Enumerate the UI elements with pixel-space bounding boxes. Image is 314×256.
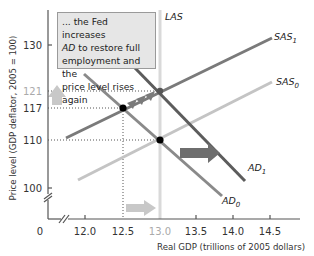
annotation-line-2: AD to restore full [62, 41, 151, 54]
chart-canvas: 130 121 117 110 100 0 12.0 12.5 13.0 13.… [0, 0, 314, 256]
ytick-130: 130 [23, 40, 42, 51]
sas1-label: SAS1 [274, 31, 297, 45]
ytick-100: 100 [23, 183, 42, 194]
ad-shift-arrow [180, 143, 220, 163]
annotation-line-1: ... the Fed increases [62, 15, 151, 41]
ytick-121: 121 [23, 86, 42, 97]
xtick-12-0: 12.0 [74, 226, 96, 237]
y-axis-title: Price level (GDP deflator, 2005 = 100) [8, 36, 18, 201]
origin-label: 0 [37, 226, 43, 237]
annotation-ad-term: AD [62, 42, 75, 53]
xtick-14-5: 14.5 [259, 226, 281, 237]
annotation-box: ... the Fed increases AD to restore full… [57, 12, 156, 69]
xtick-13-5: 13.5 [185, 226, 207, 237]
xtick-13-0: 13.0 [149, 226, 171, 237]
ad0-label: AD0 [221, 195, 241, 209]
ytick-117: 117 [23, 103, 42, 114]
sas0-label: SAS0 [276, 76, 300, 90]
annotation-line-3: employment and the [62, 54, 151, 80]
xtick-12-5: 12.5 [112, 226, 134, 237]
las-label: LAS [165, 11, 183, 22]
equilibrium-dot-121 [157, 88, 163, 94]
equilibrium-dot-110 [156, 136, 163, 143]
guide-lines [48, 91, 160, 219]
gdp-increase-arrow [126, 200, 156, 216]
ad1-label: AD1 [247, 162, 266, 176]
xtick-14-0: 14.0 [222, 226, 244, 237]
annotation-line-4: price level rises again [62, 80, 151, 106]
ad1-line [135, 68, 245, 181]
ytick-110: 110 [23, 135, 42, 146]
x-axis-title: Real GDP (trillions of 2005 dollars) [157, 242, 305, 252]
